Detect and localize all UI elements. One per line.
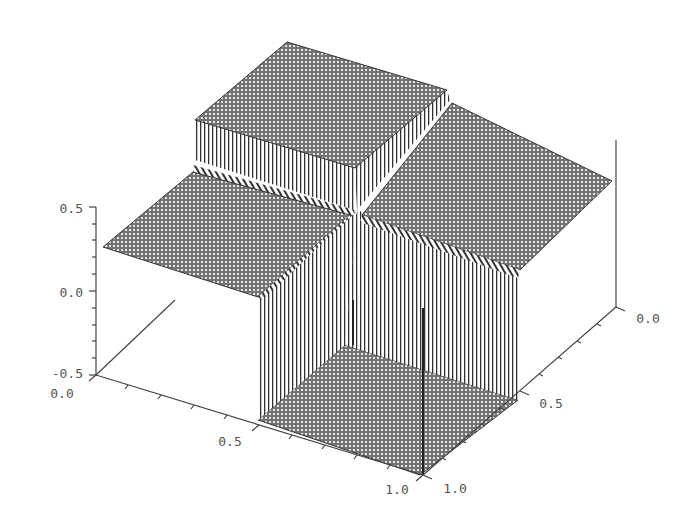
surface-plot: 0.5 0.0 -0.5 0.0 0.5 1.0 1.0 0.5 0 — [0, 0, 696, 530]
y-tick-label: 0.5 — [539, 396, 562, 411]
x-tick-label: 0.5 — [218, 434, 241, 449]
y-tick-label: 0.0 — [636, 311, 659, 326]
x-tick-label: 0.0 — [50, 386, 73, 401]
z-tick-label: 0.0 — [60, 285, 83, 300]
z-tick-label: 0.5 — [60, 201, 83, 216]
z-axis — [89, 207, 96, 375]
x-tick-label: 1.0 — [385, 482, 408, 497]
z-tick-label: -0.5 — [52, 366, 83, 381]
y-tick-label: 1.0 — [443, 481, 466, 496]
